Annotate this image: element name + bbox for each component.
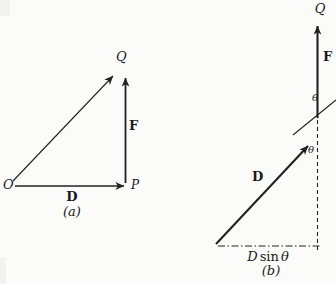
vector-d-label-b: D [252, 170, 264, 183]
panel-b-caption: (b) [262, 264, 280, 277]
d-sin-theta-d: D [247, 249, 257, 264]
vector-diagram-svg [0, 0, 336, 284]
panel-a-caption: (a) [63, 205, 81, 218]
point-p-label: P [131, 179, 139, 191]
vector-f-label-a: F [129, 119, 139, 132]
point-q-label-a: Q [116, 50, 127, 63]
vector-f-label-b: F [323, 50, 333, 63]
figure-canvas: O P Q D F (a) Q F θ θ D Dsinθ (b) [0, 0, 336, 284]
angle-theta-upper-label: θ [312, 93, 318, 103]
d-sin-theta-sin: sin [258, 249, 281, 264]
point-q-label-b: Q [315, 2, 326, 15]
d-sin-theta-theta: θ [281, 249, 289, 264]
vector-d-label-a: D [66, 190, 78, 203]
d-sin-theta-label: Dsinθ [247, 250, 288, 263]
d-direction-extension-line [293, 100, 336, 135]
vector-d-arrow-panel-b [216, 146, 308, 244]
point-o-label: O [3, 178, 14, 191]
angle-theta-lower-label: θ [308, 145, 314, 155]
resultant-oq-arrow-panel-a [13, 76, 113, 181]
